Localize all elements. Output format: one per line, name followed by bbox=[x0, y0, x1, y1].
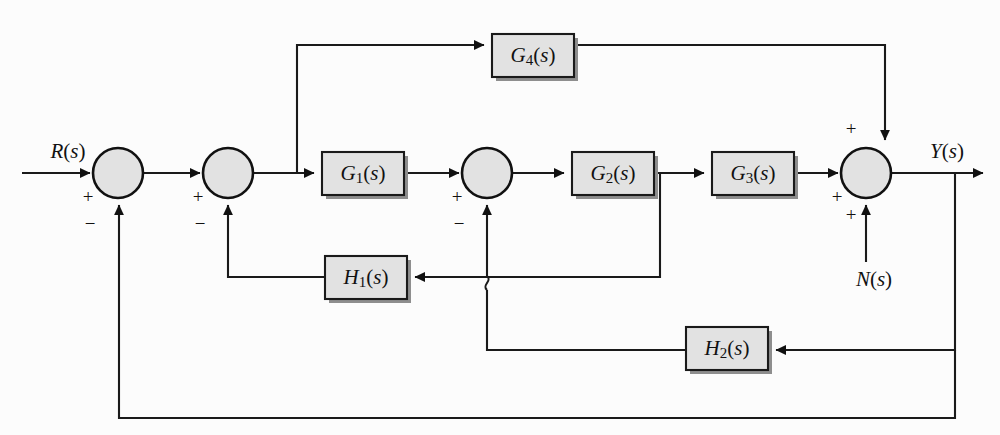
wire-g4-to-sum4 bbox=[574, 45, 885, 140]
summing-junction-4[interactable] bbox=[841, 148, 891, 198]
block-h2[interactable]: H2(s) bbox=[686, 327, 772, 374]
sign-sum2-minus: − bbox=[195, 213, 206, 234]
sign-sum1-minus: − bbox=[85, 213, 96, 234]
sign-sum1-plus: + bbox=[83, 186, 94, 207]
svg-text:G4(s): G4(s) bbox=[511, 43, 556, 69]
block-g4[interactable]: G4(s) bbox=[492, 34, 578, 81]
label-output-ys: Y(s) bbox=[930, 139, 964, 163]
block-diagram-canvas: G4(s) G1(s) G2(s) G3(s) bbox=[0, 0, 1000, 435]
svg-text:G1(s): G1(s) bbox=[341, 161, 386, 187]
sign-sum4-plus-top: + bbox=[846, 118, 857, 139]
block-g2[interactable]: G2(s) bbox=[572, 152, 658, 199]
svg-text:G2(s): G2(s) bbox=[591, 161, 636, 187]
wire-h2-to-sum3-lower bbox=[487, 290, 686, 350]
sign-sum3-minus: − bbox=[454, 213, 465, 234]
label-input-rs: R(s) bbox=[49, 139, 85, 163]
block-h1[interactable]: H1(s) bbox=[325, 256, 411, 303]
block-g1[interactable]: G1(s) bbox=[322, 152, 408, 199]
wire-outer-feedback bbox=[119, 205, 955, 418]
summing-junction-3[interactable] bbox=[462, 148, 512, 198]
sign-sum4-plus-left: + bbox=[832, 186, 843, 207]
block-diagram-svg: G4(s) G1(s) G2(s) G3(s) bbox=[0, 0, 1000, 435]
label-disturbance-ns: N(s) bbox=[855, 267, 892, 291]
wire-hop-crossing bbox=[485, 276, 488, 290]
sign-sum3-plus: + bbox=[452, 186, 463, 207]
block-g3[interactable]: G3(s) bbox=[712, 152, 798, 199]
summing-junction-1[interactable] bbox=[93, 148, 143, 198]
svg-text:H1(s): H1(s) bbox=[343, 265, 389, 291]
sign-sum2-plus: + bbox=[193, 186, 204, 207]
block-layer: G4(s) G1(s) G2(s) G3(s) bbox=[322, 34, 798, 374]
wire-h1-to-sum2 bbox=[228, 205, 325, 277]
svg-text:H2(s): H2(s) bbox=[704, 336, 750, 362]
wire-layer bbox=[22, 45, 983, 418]
svg-text:G3(s): G3(s) bbox=[731, 161, 776, 187]
sign-sum4-plus-bottom: + bbox=[846, 204, 857, 225]
summing-junction-2[interactable] bbox=[203, 148, 253, 198]
